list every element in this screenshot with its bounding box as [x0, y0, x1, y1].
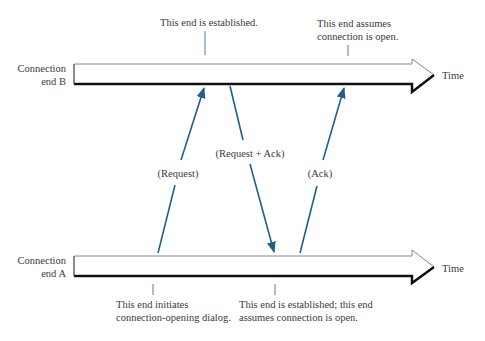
request-ack-arrow: [230, 86, 274, 252]
annotation-b-assumes-line2: connection is open.: [317, 30, 398, 43]
annotation-a-initiates-line2: connection-opening dialog.: [116, 311, 231, 324]
timeline-b-label-line1: Connection: [4, 62, 66, 75]
timeline-a-label-line2: end A: [4, 267, 66, 280]
time-label-b: Time: [442, 69, 464, 82]
timeline-b-arrow: [74, 59, 434, 92]
annotation-a-established-line2: assumes connection is open.: [239, 311, 373, 324]
time-label-a: Time: [442, 262, 464, 275]
timeline-b-label-line2: end B: [4, 75, 66, 88]
timeline-b-label: Connection end B: [4, 62, 66, 88]
timeline-a-label: Connection end A: [4, 254, 66, 280]
annotation-a-initiates-line1: This end initiates: [116, 298, 231, 311]
message-label-request-ack: (Request + Ack): [210, 147, 290, 160]
annotation-a-established: This end is established; this end assume…: [239, 298, 373, 324]
message-label-request: (Request): [148, 167, 208, 180]
annotation-b-established: This end is established.: [160, 16, 258, 29]
timeline-a-arrow: [74, 250, 434, 283]
annotation-a-established-line1: This end is established; this end: [239, 298, 373, 311]
annotation-b-assumes-line1: This end assumes: [317, 17, 398, 30]
connection-diagram: [0, 0, 485, 341]
annotation-a-initiates: This end initiates connection-opening di…: [116, 298, 231, 324]
timeline-a-label-line1: Connection: [4, 254, 66, 267]
annotation-b-assumes: This end assumes connection is open.: [317, 17, 398, 43]
message-label-ack: (Ack): [300, 167, 340, 180]
